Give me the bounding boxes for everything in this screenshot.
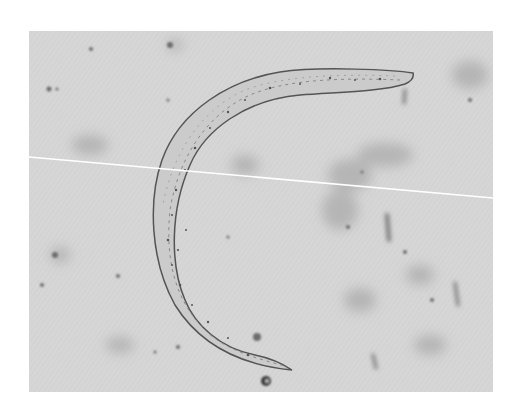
- micrograph-photo: [29, 31, 493, 392]
- small-object: [261, 376, 271, 386]
